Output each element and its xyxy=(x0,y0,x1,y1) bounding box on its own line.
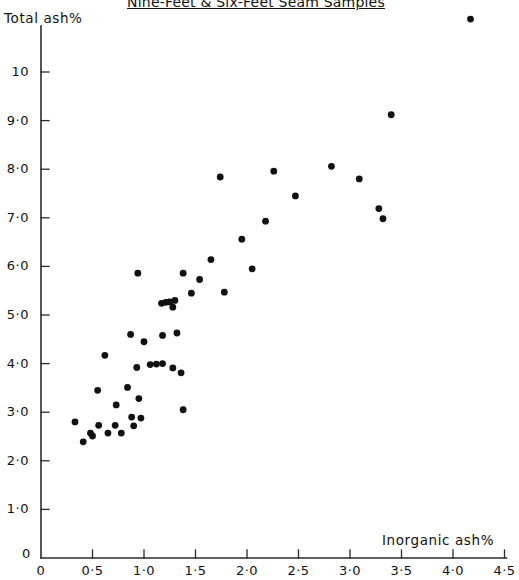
data-point xyxy=(169,304,176,311)
data-point xyxy=(356,176,363,183)
data-point xyxy=(262,218,269,225)
data-point xyxy=(467,16,474,23)
data-point xyxy=(178,369,185,376)
x-tick-label: 0·5 xyxy=(67,563,119,578)
axis-lines xyxy=(41,26,507,558)
x-tick-label: 2·0 xyxy=(221,563,273,578)
x-tick-label-origin: 0 xyxy=(15,563,67,578)
data-point xyxy=(221,289,228,296)
y-tick-label: 5·0 xyxy=(0,307,29,322)
x-tick-label: 4·5 xyxy=(479,563,519,578)
data-point xyxy=(72,419,79,426)
data-point xyxy=(135,395,142,402)
data-point xyxy=(380,215,387,222)
x-tick-label: 1·0 xyxy=(118,563,170,578)
data-point xyxy=(196,276,203,283)
data-point xyxy=(172,297,179,304)
y-tick-label: 4·0 xyxy=(0,356,29,371)
data-point xyxy=(128,414,135,421)
data-point xyxy=(113,402,120,409)
data-point xyxy=(134,270,141,277)
y-tick-label: 3·0 xyxy=(0,404,29,419)
tick-marks xyxy=(41,72,505,558)
data-point xyxy=(375,205,382,212)
data-point xyxy=(180,406,187,413)
data-point xyxy=(89,433,96,440)
data-point xyxy=(169,365,176,372)
data-point xyxy=(133,364,140,371)
data-point xyxy=(118,430,125,437)
y-tick-label: 10 xyxy=(0,64,29,79)
data-point xyxy=(94,387,101,394)
data-point xyxy=(138,415,145,422)
data-point xyxy=(105,430,112,437)
data-point xyxy=(95,422,102,429)
x-tick-label: 2·5 xyxy=(273,563,325,578)
data-point xyxy=(112,422,119,429)
data-point xyxy=(159,332,166,339)
y-tick-label: 7·0 xyxy=(0,210,29,225)
data-point xyxy=(270,168,277,175)
origin-label-y: 0 xyxy=(22,546,30,561)
data-point xyxy=(101,352,108,359)
data-point xyxy=(147,361,154,368)
x-tick-label: 1·5 xyxy=(170,563,222,578)
x-tick-label: 4·0 xyxy=(427,563,479,578)
data-point xyxy=(328,163,335,170)
data-point xyxy=(130,422,137,429)
y-tick-label: 9·0 xyxy=(0,113,29,128)
data-point-group xyxy=(72,16,474,446)
data-point xyxy=(124,384,131,391)
data-point xyxy=(153,361,160,368)
data-point xyxy=(127,331,134,338)
y-tick-label: 8·0 xyxy=(0,161,29,176)
x-tick-label: 3·5 xyxy=(376,563,428,578)
data-point xyxy=(217,174,224,181)
y-tick-label: 6·0 xyxy=(0,258,29,273)
data-point xyxy=(180,270,187,277)
data-point xyxy=(208,256,215,263)
data-point xyxy=(249,265,256,272)
data-point xyxy=(159,360,166,367)
data-point xyxy=(141,338,148,345)
data-point xyxy=(292,193,299,200)
y-tick-label: 1·0 xyxy=(0,501,29,516)
data-point xyxy=(188,290,195,297)
y-tick-label: 2·0 xyxy=(0,453,29,468)
data-point xyxy=(80,438,87,445)
data-point xyxy=(238,236,245,243)
data-point xyxy=(174,330,181,337)
x-tick-label: 3·0 xyxy=(324,563,376,578)
data-point xyxy=(388,111,395,118)
